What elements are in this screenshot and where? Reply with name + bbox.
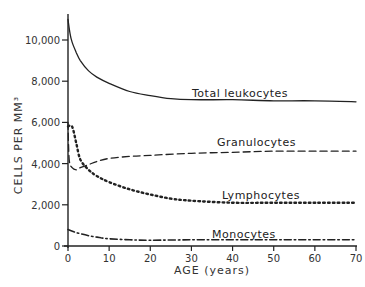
x-tick-label: 70 (350, 253, 363, 264)
y-tick-label: 4,000 (31, 159, 60, 170)
y-tick-label: 6,000 (31, 117, 60, 128)
series-granulocytes-line (68, 122, 356, 169)
x-axis-title: AGE (years) (174, 264, 250, 277)
label-total-leukocytes: Total leukocytes (191, 87, 288, 100)
label-granulocytes: Granulocytes (217, 136, 296, 149)
x-tick-label: 20 (144, 253, 157, 264)
curves (68, 19, 356, 240)
x-tick-label: 10 (103, 253, 116, 264)
x-tick-label: 60 (308, 253, 321, 264)
series-labels: Total leukocytesGranulocytesLymphocytesM… (191, 87, 300, 241)
x-tick-label: 30 (185, 253, 198, 264)
label-monocytes: Monocytes (212, 228, 276, 241)
x-tick-label: 50 (267, 253, 280, 264)
x-tick-label: 40 (226, 253, 239, 264)
y-tick-label: 0 (54, 241, 60, 252)
chart: 02,0004,0006,0008,00010,0000102030405060… (0, 0, 365, 287)
y-tick-label: 8,000 (31, 76, 60, 87)
y-tick-label: 2,000 (31, 200, 60, 211)
y-axis-title: CELLS PER MM³ (12, 96, 25, 194)
label-lymphocytes: Lymphocytes (222, 189, 300, 202)
x-tick-label: 0 (65, 253, 71, 264)
series-lymphocytes-line (68, 125, 356, 203)
y-tick-label: 10,000 (25, 35, 60, 46)
